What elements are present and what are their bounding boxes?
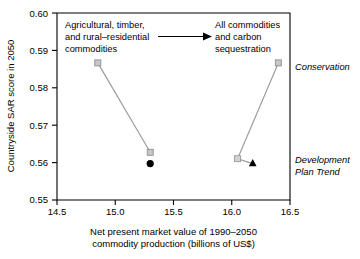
left-development-plan-trend-endpoint [147,160,154,167]
x-tick-label-2: 15.5 [164,206,183,217]
x-tick-label-4: 16.5 [281,206,300,217]
x-tick-label-1: 15.0 [106,206,125,217]
right-group-annotation: All commodities and carbon sequestration [215,20,280,54]
left-group-annotation: Agricultural, timber, and rural–resident… [65,20,149,54]
dpt-label-line1: Development [295,155,350,165]
series-left-commodities [95,60,154,167]
y-tick-label-3: 0.58 [30,82,49,93]
left-annotation-line2: and rural–residential [65,32,149,42]
x-axis-title-line2: commodity production (billions of US$) [92,238,255,249]
conservation-label: Conservation [295,62,350,72]
right-annotation-line3: sequestration [215,44,271,54]
left-annotation-line3: commodities [65,44,118,54]
arrow-head-icon [203,33,212,41]
y-axis-ticks [52,13,57,200]
x-axis-title: Net present market value of 1990–2050 co… [90,226,257,249]
series-left-line [98,63,150,152]
y-tick-label-4: 0.59 [30,45,49,56]
right-annotation-line2: and carbon [215,32,262,42]
series-right-marker-dpt [235,156,241,162]
x-axis-tick-labels: 14.5 15.0 15.5 16.0 16.5 [48,206,300,217]
conservation-label-text: Conservation [295,62,350,72]
y-axis-title-text: Countryside SAR score in 2050 [5,40,16,173]
series-right-line [238,63,279,159]
y-axis-tick-labels: 0.55 0.56 0.57 0.58 0.59 0.60 [30,8,49,206]
series-left-marker-conservation [95,60,101,66]
series-left-marker-dpt [147,149,153,155]
y-tick-label-2: 0.57 [30,120,49,131]
dpt-label-line2: Plan Trend [295,167,341,177]
series-right-commodities [235,60,282,166]
chart-figure: 0.55 0.56 0.57 0.58 0.59 0.60 14.5 15.0 … [0,0,360,259]
chart-svg: 0.55 0.56 0.57 0.58 0.59 0.60 14.5 15.0 … [0,0,360,259]
x-axis-ticks [57,200,290,205]
development-plan-trend-label: Development Plan Trend [295,155,350,177]
left-annotation-line1: Agricultural, timber, [65,20,145,30]
right-annotation-line1: All commodities [215,20,280,30]
y-axis-title: Countryside SAR score in 2050 [5,40,16,173]
y-tick-label-0: 0.55 [30,194,49,205]
x-tick-label-0: 14.5 [48,206,67,217]
x-axis-title-line1: Net present market value of 1990–2050 [90,226,257,237]
y-tick-label-5: 0.60 [30,8,49,19]
y-tick-label-1: 0.56 [30,157,49,168]
series-right-marker-conservation [275,60,281,66]
x-tick-label-3: 16.0 [223,206,242,217]
annotation-arrow [158,33,212,41]
